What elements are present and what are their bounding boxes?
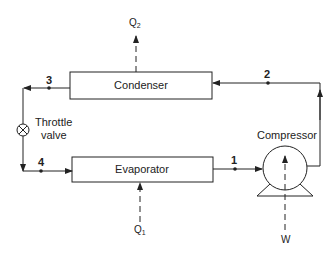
condenser: Condenser — [70, 72, 212, 99]
condenser-label: Condenser — [114, 79, 168, 91]
q1-label: Q1 — [134, 224, 146, 236]
state-1-label: 1 — [231, 154, 237, 166]
throttle-valve: Throttle valve — [17, 116, 72, 141]
throttle-label-line2: valve — [41, 129, 67, 141]
evaporator: Evaporator — [72, 157, 213, 182]
q2-label: Q2 — [129, 17, 141, 29]
compressor: Compressor — [257, 129, 317, 196]
evaporator-label: Evaporator — [115, 163, 169, 175]
state-2-label: 2 — [264, 68, 270, 80]
state-3-label: 3 — [46, 74, 52, 86]
throttle-label-line1: Throttle — [35, 116, 72, 128]
state-4-label: 4 — [38, 156, 45, 168]
refrigeration-cycle-diagram: Condenser Evaporator Compressor Throttle… — [0, 0, 336, 259]
work-label: W — [281, 234, 291, 245]
compressor-outlet-line — [307, 83, 320, 166]
compressor-label: Compressor — [257, 129, 317, 141]
